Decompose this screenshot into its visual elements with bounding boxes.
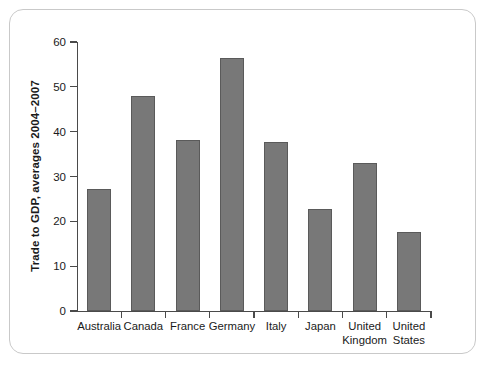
bar-france	[176, 140, 200, 311]
y-tick-label: 10	[20, 260, 66, 272]
x-tick-label-united-states: UnitedStates	[383, 320, 435, 347]
y-tick-label: 40	[20, 126, 66, 138]
y-tick-label: 20	[20, 215, 66, 227]
x-tick-mark	[209, 311, 210, 318]
bar-italy	[264, 142, 288, 311]
x-tick-label-line: United	[383, 320, 435, 334]
x-tick-mark	[298, 311, 299, 318]
chart-figure: Trade to GDP, averages 2004–2007 0102030…	[0, 0, 491, 372]
x-tick-mark	[430, 311, 431, 318]
y-axis-tick-labels: 0102030405060	[0, 0, 66, 372]
y-tick-mark	[70, 266, 77, 267]
plot-area	[77, 42, 431, 311]
y-tick-label: 0	[20, 305, 66, 317]
y-tick-label: 30	[20, 171, 66, 183]
y-tick-mark	[70, 131, 77, 132]
bar-united-kingdom	[353, 163, 377, 311]
x-tick-mark	[165, 311, 166, 318]
y-tick-mark	[70, 86, 77, 87]
x-tick-label-line: States	[383, 334, 435, 348]
x-tick-mark	[253, 311, 254, 318]
y-tick-mark	[70, 176, 77, 177]
x-axis-tick-labels: AustraliaCanadaFranceGermanyItalyJapanUn…	[77, 320, 431, 366]
bar-japan	[308, 209, 332, 311]
x-tick-mark	[386, 311, 387, 318]
y-tick-label: 50	[20, 81, 66, 93]
y-tick-mark	[70, 221, 77, 222]
y-tick-mark	[70, 310, 77, 311]
bar-germany	[220, 58, 244, 311]
bar-australia	[87, 189, 111, 311]
y-tick-mark	[70, 41, 77, 42]
bar-canada	[131, 96, 155, 311]
bar-united-states	[397, 232, 421, 311]
y-tick-label: 60	[20, 36, 66, 48]
x-tick-mark	[121, 311, 122, 318]
x-tick-mark	[342, 311, 343, 318]
